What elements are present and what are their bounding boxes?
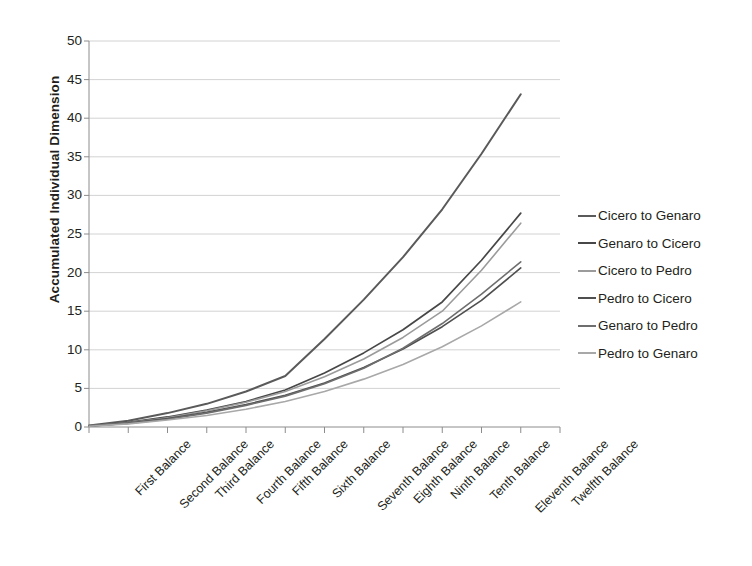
series-line-5 xyxy=(89,302,521,426)
legend-label: Genaro to Cicero xyxy=(598,237,701,251)
x-tick-label: Ninth Balance xyxy=(448,437,513,502)
x-tick-label: Eighth Balance xyxy=(410,437,479,506)
series-line-0 xyxy=(89,94,521,425)
y-tick-label: 15 xyxy=(48,304,82,318)
legend-swatch-line-icon xyxy=(578,242,596,244)
legend-item[interactable]: Cicero to Pedro xyxy=(578,257,748,285)
legend-swatch-line-icon xyxy=(578,325,596,327)
series-line-3 xyxy=(89,268,521,426)
legend-item[interactable]: Cicero to Genaro xyxy=(578,202,748,230)
y-tick-label: 20 xyxy=(48,266,82,280)
series-line-2 xyxy=(89,223,521,426)
y-tick-label: 35 xyxy=(48,150,82,164)
legend-swatch-line-icon xyxy=(578,215,596,217)
legend-item[interactable]: Pedro to Genaro xyxy=(578,340,748,368)
legend-label: Cicero to Pedro xyxy=(598,264,692,278)
legend-item[interactable]: Genaro to Pedro xyxy=(578,312,748,340)
y-tick-label: 45 xyxy=(48,73,82,87)
legend-label: Cicero to Genaro xyxy=(598,209,701,223)
y-tick-label: 50 xyxy=(48,34,82,48)
line-chart: Accumulated Individual Dimension 5045403… xyxy=(0,0,752,566)
legend-swatch-line-icon xyxy=(578,352,596,354)
x-tick-label: Sixth Balance xyxy=(330,437,394,501)
x-tick-label: Twelfth Balance xyxy=(569,437,641,509)
y-axis-tick-labels: 50454035302520151050 xyxy=(44,0,82,566)
y-tick-label: 5 xyxy=(48,381,82,395)
legend-item[interactable]: Pedro to Cicero xyxy=(578,285,748,313)
y-tick-label: 40 xyxy=(48,111,82,125)
plot-svg xyxy=(89,41,560,427)
y-tick-label: 10 xyxy=(48,343,82,357)
x-tick-label: First Balance xyxy=(132,437,193,498)
x-tick-label: Eleventh Balance xyxy=(532,437,611,516)
x-tick-label: Third Balance xyxy=(212,437,276,501)
chart-legend: Cicero to GenaroGenaro to CiceroCicero t… xyxy=(578,202,748,367)
y-tick-label: 25 xyxy=(48,227,82,241)
legend-item[interactable]: Genaro to Cicero xyxy=(578,230,748,258)
legend-label: Pedro to Genaro xyxy=(598,347,698,361)
x-tick-label: Fifth Balance xyxy=(289,437,350,498)
x-tick-label: Seventh Balance xyxy=(374,437,451,514)
legend-label: Pedro to Cicero xyxy=(598,292,692,306)
x-tick-label: Fourth Balance xyxy=(254,437,324,507)
x-tick-label: Second Balance xyxy=(177,437,251,511)
plot-area xyxy=(89,41,560,427)
y-tick-label: 30 xyxy=(48,188,82,202)
legend-label: Genaro to Pedro xyxy=(598,319,698,333)
y-tick-label: 0 xyxy=(48,420,82,434)
legend-swatch-line-icon xyxy=(578,297,596,299)
legend-swatch-line-icon xyxy=(578,270,596,272)
x-tick-label: Tenth Balance xyxy=(487,437,553,503)
series-line-1 xyxy=(89,213,521,426)
